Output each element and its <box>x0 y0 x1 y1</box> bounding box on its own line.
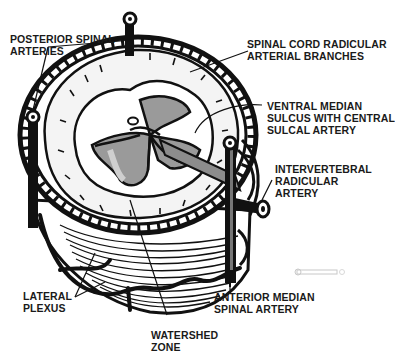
scale-bar <box>295 269 345 275</box>
label-line: LATERAL <box>23 290 72 302</box>
label-line: ANTERIOR MEDIAN <box>214 291 315 303</box>
label-line: SULCUS WITH CENTRAL <box>267 112 395 124</box>
label-line: PLEXUS <box>23 302 72 314</box>
label-line: ARTERY <box>275 187 372 199</box>
label-line: SPINAL ARTERY <box>214 303 315 315</box>
label-line: WATERSHED <box>151 329 218 341</box>
label-anterior-median-spinal-artery: ANTERIOR MEDIAN SPINAL ARTERY <box>214 291 315 315</box>
label-watershed-zone: WATERSHED ZONE <box>151 329 218 353</box>
label-lateral-plexus: LATERAL PLEXUS <box>23 290 72 314</box>
label-intervertebral-radicular-artery: INTERVERTEBRAL RADICULAR ARTERY <box>275 163 372 199</box>
anterior-median-spinal-artery-post <box>224 137 236 287</box>
label-line: RADICULAR <box>275 175 372 187</box>
label-line: POSTERIOR SPINAL <box>10 33 115 45</box>
posterior-spinal-artery-left <box>27 111 39 228</box>
label-spinal-cord-radicular-arterial-branches: SPINAL CORD RADICULAR ARTERIAL BRANCHES <box>247 38 387 62</box>
label-line: INTERVERTEBRAL <box>275 163 372 175</box>
label-line: VENTRAL MEDIAN <box>267 100 395 112</box>
label-line: ARTERIES <box>10 45 115 57</box>
label-posterior-spinal-arteries: POSTERIOR SPINAL ARTERIES <box>10 33 115 57</box>
label-line: ARTERIAL BRANCHES <box>247 50 387 62</box>
label-line: SPINAL CORD RADICULAR <box>247 38 387 50</box>
label-line: SULCAL ARTERY <box>267 124 395 136</box>
label-ventral-median-sulcus: VENTRAL MEDIAN SULCUS WITH CENTRAL SULCA… <box>267 100 395 136</box>
label-line: ZONE <box>151 341 218 353</box>
